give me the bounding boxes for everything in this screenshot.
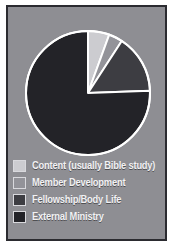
- legend-label-content: Content (usually Bible study): [32, 160, 155, 172]
- legend-label-external-ministry: External Ministry: [32, 211, 104, 223]
- legend-swatch-content: [13, 160, 26, 172]
- chart-legend: Content (usually Bible study) Member Dev…: [13, 158, 162, 226]
- legend-label-fellowship-body-life: Fellowship/Body Life: [32, 194, 121, 206]
- legend-item-external-ministry[interactable]: External Ministry: [13, 209, 162, 224]
- pie-slice-group: [26, 31, 150, 155]
- legend-swatch-external-ministry: [13, 211, 26, 223]
- legend-item-member-development[interactable]: Member Development: [13, 175, 162, 190]
- chart-frame: Content (usually Bible study) Member Dev…: [6, 5, 167, 241]
- legend-label-member-development: Member Development: [32, 177, 125, 189]
- legend-swatch-member-development: [13, 177, 26, 189]
- legend-swatch-fellowship-body-life: [13, 194, 26, 206]
- legend-item-content[interactable]: Content (usually Bible study): [13, 158, 162, 173]
- legend-item-fellowship-body-life[interactable]: Fellowship/Body Life: [13, 192, 162, 207]
